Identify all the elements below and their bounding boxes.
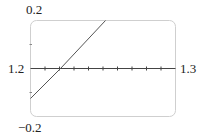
data-line [31, 21, 106, 99]
plot-area [0, 0, 202, 136]
axes [30, 45, 176, 93]
